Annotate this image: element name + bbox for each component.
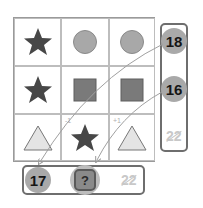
row-sum-2: 16	[161, 76, 187, 102]
puzzle-grid: -1 +1	[13, 17, 155, 162]
cell-r0c0[interactable]	[14, 18, 61, 66]
square-icon	[120, 78, 144, 102]
cell-r0c2[interactable]	[109, 18, 155, 66]
cell-r2c1[interactable]: -1	[61, 114, 109, 161]
triangle-icon	[23, 125, 53, 151]
hint-minus-one: -1	[65, 117, 71, 124]
star-icon	[23, 75, 53, 105]
question-box[interactable]: ?	[74, 169, 96, 191]
square-icon	[73, 78, 97, 102]
star-icon	[23, 27, 53, 57]
col-sum-3-unknown: 22	[121, 172, 137, 188]
cell-r1c1[interactable]	[61, 66, 109, 114]
cell-r0c1[interactable]	[61, 18, 109, 66]
hint-plus-one: +1	[113, 117, 121, 124]
triangle-icon	[117, 125, 147, 151]
cell-r2c0[interactable]	[14, 114, 61, 161]
col-sum-1: 17	[25, 167, 51, 193]
circle-icon	[119, 29, 145, 55]
cell-r2c2[interactable]: +1	[109, 114, 155, 161]
cell-r1c2[interactable]	[109, 66, 155, 114]
star-icon	[70, 123, 100, 153]
row-sum-1: 18	[161, 28, 187, 54]
cell-r1c0[interactable]	[14, 66, 61, 114]
row-sum-3-unknown: 22	[166, 128, 182, 144]
circle-icon	[72, 29, 98, 55]
